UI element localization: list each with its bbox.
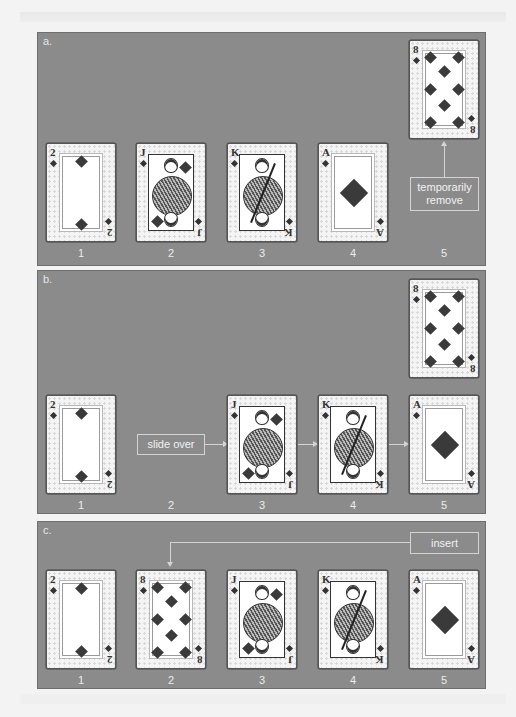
slot-number: 1 — [46, 674, 116, 686]
diamond-icon — [286, 218, 293, 225]
slot-number: 5 — [409, 499, 479, 511]
rank-bottom: A — [467, 654, 475, 665]
panel-b: b. 8 8 2 2 slide over — [37, 270, 486, 514]
jack-head-icon — [255, 464, 269, 479]
diamond-icon — [322, 160, 329, 167]
jack-figure-icon — [243, 428, 283, 468]
king-head-icon — [255, 212, 269, 227]
king-head-icon — [346, 585, 360, 600]
rank-bottom: 2 — [107, 227, 113, 238]
diamond-icon — [270, 413, 283, 426]
panel-label: b. — [43, 273, 52, 285]
diamond-icon — [468, 354, 475, 361]
slot-number: 2 — [136, 499, 206, 511]
diamond-icon — [151, 215, 164, 228]
card-face-art — [330, 581, 376, 658]
jack-head-icon — [164, 158, 178, 173]
rank-bottom: K — [284, 227, 293, 238]
rank-top: A — [413, 399, 421, 410]
card-ace-of-diamonds: A A — [409, 395, 479, 494]
rank-bottom: J — [288, 479, 294, 490]
rank-bottom: K — [375, 654, 384, 665]
king-head-icon — [255, 158, 269, 173]
slot-number: 1 — [46, 247, 116, 259]
rank-top: J — [231, 574, 237, 585]
card-face-art — [239, 154, 285, 231]
diamond-icon — [242, 467, 255, 480]
slot-number: 4 — [318, 674, 388, 686]
card-face-art — [239, 581, 285, 658]
card-king-of-diamonds: K K — [318, 570, 388, 669]
slot-number: 3 — [227, 674, 297, 686]
connector-line — [170, 542, 171, 563]
annotation-insert: insert — [410, 532, 479, 554]
jack-head-icon — [255, 585, 269, 600]
slot-number: 1 — [46, 499, 116, 511]
diamond-icon — [140, 587, 147, 594]
slot-number: 4 — [318, 247, 388, 259]
diamond-icon — [322, 587, 329, 594]
diamond-icon — [179, 161, 192, 174]
slot-number: 3 — [227, 499, 297, 511]
slot-number: 4 — [318, 499, 388, 511]
card-jack-of-diamonds: J J — [136, 143, 206, 242]
diamond-icon — [322, 412, 329, 419]
rank-bottom: A — [376, 227, 384, 238]
annotation-temporarily-remove: temporarily remove — [410, 177, 479, 211]
card-two-of-diamonds: 2 2 — [46, 143, 116, 242]
connector-line — [444, 144, 445, 177]
card-two-of-diamonds: 2 2 — [46, 570, 116, 669]
card-jack-of-diamonds: J J — [227, 395, 297, 494]
diamond-icon — [468, 470, 475, 477]
diamond-icon — [242, 642, 255, 655]
rank-bottom: K — [375, 479, 384, 490]
rank-top: 2 — [50, 147, 56, 158]
diamond-icon — [231, 412, 238, 419]
jack-figure-icon — [243, 603, 283, 643]
card-face-art — [330, 406, 376, 483]
diamond-icon — [377, 645, 384, 652]
rank-bottom: 8 — [470, 124, 476, 135]
diamond-icon — [231, 160, 238, 167]
rank-bottom: A — [467, 479, 475, 490]
diamond-icon — [195, 218, 202, 225]
slot-number: 5 — [409, 674, 479, 686]
rank-top: 2 — [50, 574, 56, 585]
card-king-of-diamonds: K K — [227, 143, 297, 242]
connector-line — [170, 542, 410, 543]
rank-bottom: J — [288, 654, 294, 665]
rank-top: 8 — [413, 44, 419, 55]
rank-top: 2 — [50, 399, 56, 410]
rank-top: A — [322, 147, 330, 158]
diamond-icon — [413, 57, 420, 64]
rank-bottom: 8 — [197, 654, 203, 665]
diamond-icon — [468, 115, 475, 122]
connector-line — [205, 444, 225, 445]
king-head-icon — [346, 639, 360, 654]
card-king-of-diamonds: K K — [318, 395, 388, 494]
next-page-bleed — [20, 694, 506, 704]
slot-number: 5 — [409, 247, 479, 259]
diamond-icon — [270, 588, 283, 601]
card-ace-of-diamonds: A A — [409, 570, 479, 669]
rank-bottom: J — [197, 227, 203, 238]
diamond-icon — [413, 296, 420, 303]
card-two-of-diamonds: 2 2 — [46, 395, 116, 494]
rank-top: A — [413, 574, 421, 585]
slot-number: 2 — [136, 674, 206, 686]
diamond-icon — [50, 412, 57, 419]
diamond-icon — [377, 470, 384, 477]
rank-top: J — [231, 399, 237, 410]
connector-line — [389, 444, 405, 445]
card-face-art — [148, 154, 194, 231]
diamond-icon — [468, 645, 475, 652]
card-jack-of-diamonds: J J — [227, 570, 297, 669]
slot-number: 3 — [227, 247, 297, 259]
diamond-icon — [413, 412, 420, 419]
card-eight-of-diamonds: 8 8 — [409, 279, 479, 378]
card-face-art — [239, 406, 285, 483]
rank-top: 8 — [140, 574, 146, 585]
diamond-icon — [231, 587, 238, 594]
jack-head-icon — [164, 212, 178, 227]
diamond-icon — [413, 587, 420, 594]
